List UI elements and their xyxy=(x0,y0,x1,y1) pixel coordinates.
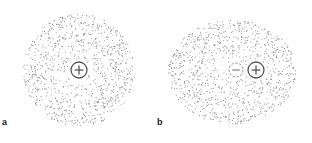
panel-label-a: a xyxy=(2,117,7,127)
diagram-canvas xyxy=(0,0,312,143)
panel-label-b: b xyxy=(157,117,163,127)
negative-charge-icon xyxy=(229,63,243,77)
positive-charge-icon xyxy=(71,62,87,78)
positive-charge-icon xyxy=(248,62,264,78)
charges xyxy=(71,62,264,78)
